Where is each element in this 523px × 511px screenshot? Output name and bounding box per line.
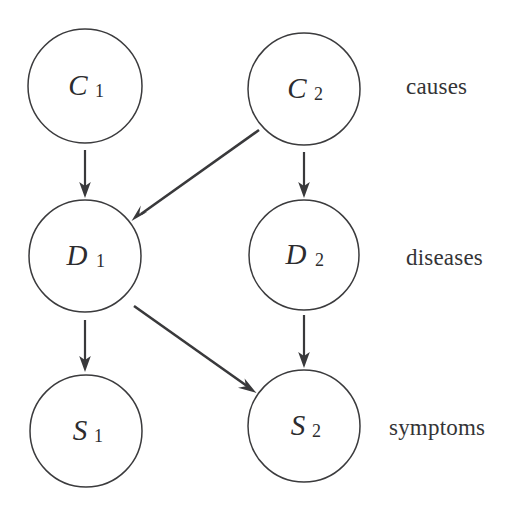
node-c2-subscript: 2	[314, 84, 323, 104]
causal-diagram: C 1 C 2 D 1 D 2 S 1	[0, 0, 523, 511]
node-d2[interactable]: D 2	[249, 200, 359, 310]
node-c1-label: C	[68, 69, 88, 101]
node-s1-subscript: 1	[94, 426, 103, 446]
node-s1[interactable]: S 1	[30, 375, 142, 487]
edge-d1-s2-shaft	[134, 306, 247, 386]
node-d2-label: D	[285, 238, 307, 270]
node-layer: C 1 C 2 D 1 D 2 S 1	[28, 29, 360, 487]
node-d1[interactable]: D 1	[29, 200, 141, 312]
node-c2[interactable]: C 2	[248, 33, 360, 145]
edge-c2-d1-arrowhead	[132, 206, 148, 221]
edge-d2-s2	[298, 315, 310, 368]
node-s2-label: S	[291, 409, 306, 441]
edge-d1-s1	[79, 320, 91, 372]
edge-c1-d1	[79, 150, 91, 198]
row-label-symptoms: symptoms	[389, 415, 485, 441]
node-c2-label: C	[287, 72, 307, 104]
node-c1[interactable]: C 1	[28, 29, 142, 143]
edge-c2-d1	[132, 130, 260, 221]
node-s2[interactable]: S 2	[248, 370, 360, 482]
node-d1-subscript: 1	[96, 251, 105, 271]
row-label-causes: causes	[406, 74, 467, 100]
row-label-diseases: diseases	[406, 245, 483, 271]
node-s2-subscript: 2	[312, 421, 321, 441]
edge-c2-d2	[298, 152, 310, 198]
node-s1-label: S	[73, 414, 88, 446]
node-d1-label: D	[66, 239, 88, 271]
edge-d1-s2	[134, 306, 257, 393]
node-c1-subscript: 1	[95, 81, 104, 101]
edge-c2-d1-shaft	[141, 130, 259, 214]
node-d2-subscript: 2	[315, 250, 324, 270]
